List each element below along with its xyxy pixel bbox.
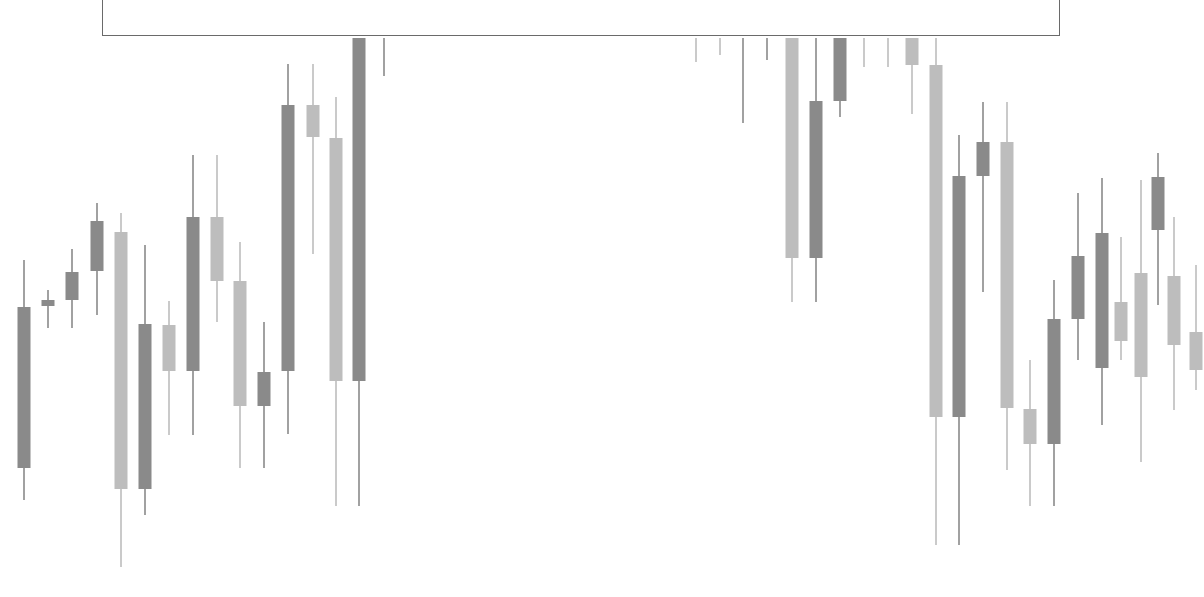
candle-body — [1024, 409, 1037, 444]
candle-body — [139, 324, 152, 489]
candle — [1135, 180, 1148, 462]
candle-body — [1168, 276, 1181, 345]
candlestick-chart — [0, 0, 1204, 597]
candle — [18, 260, 31, 500]
candle — [834, 38, 847, 117]
candle — [42, 290, 55, 328]
candle — [211, 155, 224, 322]
candle-body — [211, 217, 224, 281]
candle-body — [330, 138, 343, 381]
candle — [163, 301, 176, 435]
candle — [353, 38, 366, 506]
candle-body — [1096, 233, 1109, 368]
candle — [307, 64, 320, 254]
candle — [953, 135, 966, 545]
candle-body — [353, 38, 366, 381]
candle — [1096, 178, 1109, 425]
candle-body — [1115, 302, 1128, 341]
candle — [115, 213, 128, 567]
candle-body — [234, 281, 247, 406]
candle — [139, 245, 152, 515]
candle-body — [187, 217, 200, 371]
candle-body — [953, 176, 966, 417]
candle-body — [786, 38, 799, 258]
candle — [1190, 265, 1203, 390]
candle-body — [18, 307, 31, 468]
candle — [930, 38, 943, 545]
candle — [91, 203, 104, 315]
candle — [786, 38, 799, 302]
candle — [1024, 360, 1037, 506]
candle-body — [163, 325, 176, 371]
candle-body — [282, 105, 295, 371]
candle-body — [1190, 332, 1203, 370]
candle — [1168, 217, 1181, 410]
candle — [330, 97, 343, 506]
candle — [234, 242, 247, 468]
candle-body — [307, 105, 320, 137]
candle — [810, 38, 823, 302]
candle-body — [1135, 273, 1148, 377]
candle-body — [1072, 256, 1085, 319]
candle — [1048, 280, 1061, 506]
candle-body — [115, 232, 128, 489]
overlay-box — [102, 0, 1060, 36]
candles-group — [18, 38, 1203, 567]
candle-body — [1048, 319, 1061, 444]
candle-body — [1001, 142, 1014, 408]
candle-body — [977, 142, 990, 176]
candle — [906, 38, 919, 114]
candle — [1152, 153, 1165, 305]
candle — [1115, 237, 1128, 360]
candle-body — [930, 65, 943, 417]
candle — [282, 64, 295, 434]
candle — [66, 249, 79, 328]
candle-body — [810, 101, 823, 258]
candle — [1001, 102, 1014, 470]
candle — [977, 102, 990, 292]
candle — [1072, 193, 1085, 360]
candle-body — [834, 38, 847, 101]
candle-body — [91, 221, 104, 271]
candle-body — [42, 300, 55, 306]
candle-body — [906, 38, 919, 65]
candle-body — [258, 372, 271, 406]
candle — [258, 322, 271, 468]
candle-body — [66, 272, 79, 300]
candle — [187, 155, 200, 435]
candle-body — [1152, 177, 1165, 230]
